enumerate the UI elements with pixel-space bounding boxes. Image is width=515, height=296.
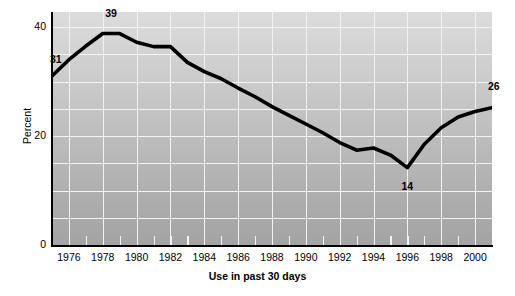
x-tick-major — [441, 236, 442, 245]
x-tick-minor — [221, 236, 222, 245]
x-tick-minor — [424, 236, 425, 245]
x-tick-minor — [86, 236, 87, 245]
x-tick-label: 2000 — [455, 252, 495, 263]
x-tick-major — [475, 236, 476, 245]
x-tick-major — [137, 236, 138, 245]
x-tick-minor — [187, 236, 188, 245]
x-tick-minor — [458, 236, 459, 245]
x-tick-major — [204, 236, 205, 245]
x-tick-major — [238, 236, 239, 245]
x-tick-major — [170, 236, 171, 245]
x-tick-minor — [255, 236, 256, 245]
x-tick-major — [103, 236, 104, 245]
data-point-label: 39 — [105, 8, 117, 19]
x-tick-major — [69, 236, 70, 245]
x-axis-tick-labels: 1976197819801982198419861988199019921994… — [0, 0, 515, 296]
x-tick-major — [340, 236, 341, 245]
x-tick-major — [272, 236, 273, 245]
x-tick-major — [407, 236, 408, 245]
x-tick-minor — [323, 236, 324, 245]
chart-figure: 02040 1976197819801982198419861988199019… — [0, 0, 515, 296]
x-tick-minor — [120, 236, 121, 245]
x-axis-title: Use in past 30 days — [0, 270, 515, 282]
data-point-label: 31 — [50, 54, 62, 65]
x-tick-minor — [289, 236, 290, 245]
x-tick-major — [306, 236, 307, 245]
data-point-label: 26 — [488, 81, 500, 92]
x-tick-major — [374, 236, 375, 245]
x-tick-minor — [357, 236, 358, 245]
x-tick-minor — [390, 236, 391, 245]
data-point-label: 14 — [401, 181, 413, 192]
x-tick-minor — [154, 236, 155, 245]
y-axis-title: Percent — [21, 91, 33, 161]
